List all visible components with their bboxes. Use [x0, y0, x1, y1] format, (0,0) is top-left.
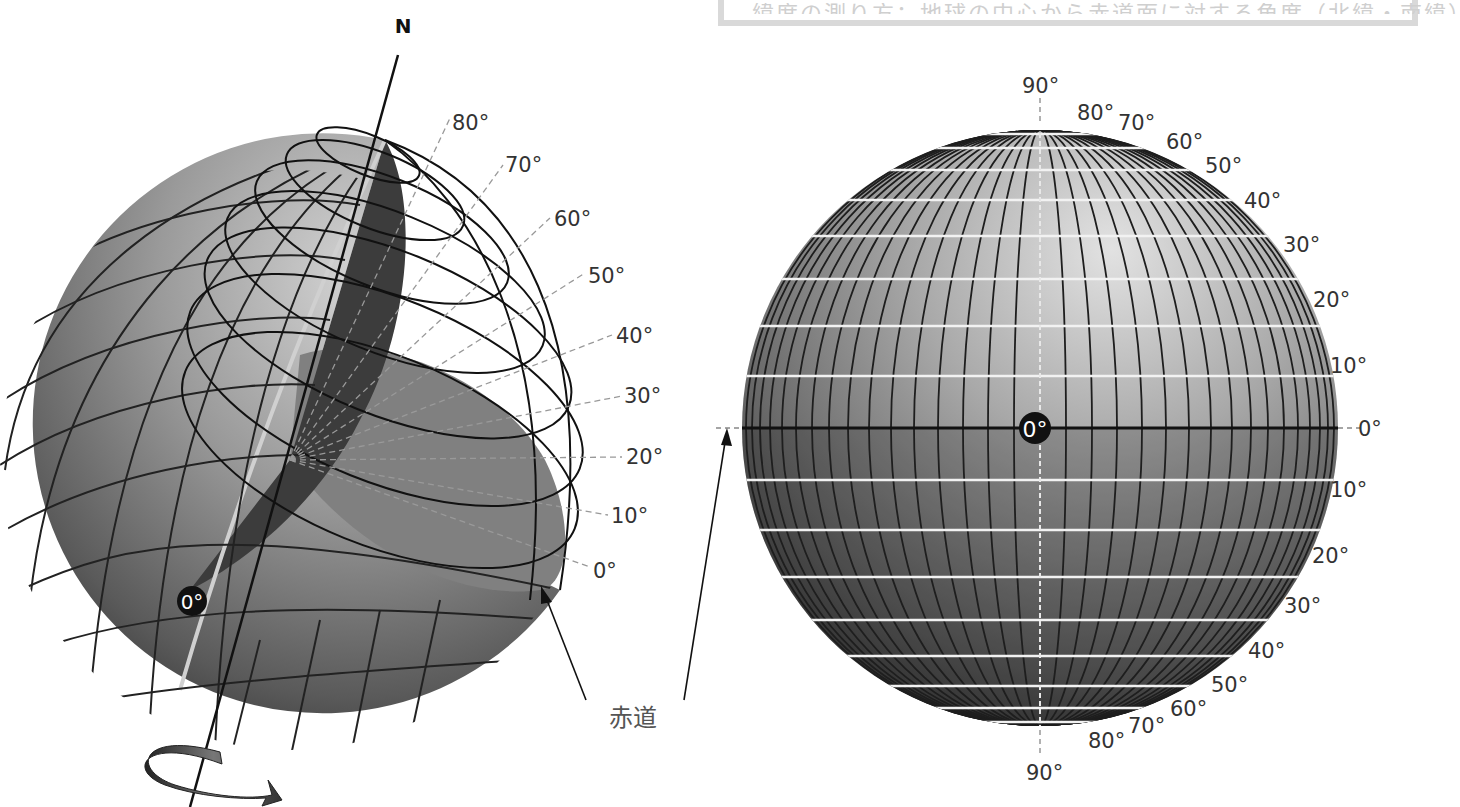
lat-label-40: 40° [616, 324, 653, 348]
n-label-20: 20° [1313, 288, 1350, 312]
s-label-80: 80° [1088, 729, 1125, 753]
n-label-50: 50° [1205, 154, 1242, 178]
s-label-30: 30° [1284, 594, 1321, 618]
rotation-arrow-icon [145, 746, 282, 806]
lat-label-20: 20° [626, 445, 663, 469]
n-label-90: 90° [1022, 74, 1059, 98]
right-globe: 0° 90° 80° 70° 60° 50° 40° 30° 20° 10° 0… [684, 74, 1382, 785]
s-label-60: 60° [1170, 697, 1207, 721]
s-label-20: 20° [1312, 544, 1349, 568]
lat-label-10: 10° [611, 504, 648, 528]
s-label-50: 50° [1211, 673, 1248, 697]
equator-arrow-right [684, 428, 732, 700]
left-globe: N 80° 70° 60° 50° 40° 30° 20° 10° 0° 0° [0, 14, 663, 807]
n-label-10: 10° [1330, 354, 1367, 378]
equator-label: 赤道 [609, 704, 657, 732]
lat-label-80: 80° [452, 111, 489, 135]
n-label-40: 40° [1244, 189, 1281, 213]
lat-label-50: 50° [588, 264, 625, 288]
n-label-30: 30° [1283, 233, 1320, 257]
n-label-80: 80° [1077, 101, 1114, 125]
lat-label-30: 30° [624, 384, 661, 408]
equator-arrow-left [541, 586, 586, 700]
s-label-90: 90° [1026, 761, 1063, 785]
right-equator-label: 0° [1358, 417, 1382, 441]
s-label-40: 40° [1248, 639, 1285, 663]
north-label: N [395, 14, 412, 38]
lat-label-70: 70° [505, 153, 542, 177]
center-badge-label: 0° [1023, 417, 1048, 442]
lat-label-60: 60° [554, 207, 591, 231]
n-label-70: 70° [1118, 111, 1155, 135]
s-label-70: 70° [1128, 714, 1165, 738]
s-label-10: 10° [1330, 478, 1367, 502]
origin-badge-label: 0° [181, 590, 204, 614]
lat-label-0: 0° [593, 559, 617, 583]
n-label-60: 60° [1166, 130, 1203, 154]
